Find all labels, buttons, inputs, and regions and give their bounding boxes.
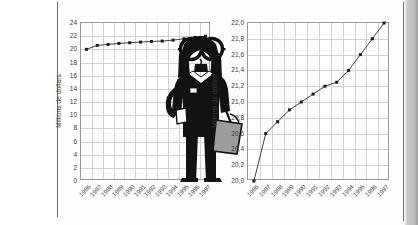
chart-full-scale: Millions de dollars 02468101214161820222… bbox=[58, 0, 218, 225]
y-axis-tick-label: 20,2 bbox=[231, 161, 244, 168]
series-marker bbox=[371, 37, 374, 40]
series-marker bbox=[107, 43, 110, 46]
y-axis-tick-label: 21,8 bbox=[231, 34, 244, 41]
series-marker bbox=[128, 41, 131, 44]
series-marker bbox=[139, 41, 142, 44]
y-axis-tick-label: 21,6 bbox=[231, 50, 244, 57]
series-marker bbox=[347, 69, 350, 72]
y-axis-tick-label: 18 bbox=[70, 58, 77, 65]
chart-right-y-axis-title: Millions de dollars bbox=[211, 74, 218, 128]
y-axis-tick-label: 20,0 bbox=[231, 177, 244, 184]
y-axis-tick-label: 21,4 bbox=[231, 66, 244, 73]
series-marker bbox=[323, 85, 326, 88]
series-marker bbox=[335, 81, 338, 84]
series-marker bbox=[312, 93, 315, 96]
series-marker bbox=[85, 48, 88, 51]
series-marker bbox=[117, 42, 120, 45]
series-line bbox=[254, 23, 384, 181]
series-line bbox=[86, 36, 205, 49]
series-marker bbox=[300, 101, 303, 104]
chart-truncated-scale: Millions de dollars 20,020,220,420,620,8… bbox=[214, 0, 404, 225]
y-axis-tick-label: 20,6 bbox=[231, 129, 244, 136]
series-marker bbox=[193, 36, 196, 39]
y-axis-tick-label: 2 bbox=[73, 163, 77, 170]
series-marker bbox=[264, 132, 267, 135]
series-marker bbox=[276, 120, 279, 123]
y-axis-tick-label: 21,2 bbox=[231, 82, 244, 89]
y-axis-tick-label: 21,0 bbox=[231, 98, 244, 105]
chart-left-y-axis-title: Millions de dollars bbox=[55, 74, 62, 128]
y-axis-tick-label: 16 bbox=[70, 71, 77, 78]
chart-left-series bbox=[81, 23, 211, 181]
y-axis-tick-label: 20,4 bbox=[231, 145, 244, 152]
y-axis-tick-label: 22 bbox=[70, 32, 77, 39]
series-marker bbox=[288, 108, 291, 111]
series-marker bbox=[150, 40, 153, 43]
y-axis-tick-label: 20 bbox=[70, 45, 77, 52]
y-axis-tick-label: 10 bbox=[70, 111, 77, 118]
series-marker bbox=[383, 22, 386, 25]
series-marker bbox=[204, 35, 207, 38]
page-canvas: Millions de dollars 02468101214161820222… bbox=[0, 0, 418, 225]
y-axis-tick-label: 0 bbox=[73, 177, 77, 184]
y-axis-tick-label: 14 bbox=[70, 84, 77, 91]
chart-right-series bbox=[248, 23, 390, 181]
series-marker bbox=[161, 40, 164, 43]
series-marker bbox=[182, 37, 185, 40]
series-marker bbox=[359, 53, 362, 56]
series-marker bbox=[172, 39, 175, 42]
y-axis-tick-label: 22,0 bbox=[231, 19, 244, 26]
series-marker bbox=[96, 44, 99, 47]
y-axis-tick-label: 12 bbox=[70, 98, 77, 105]
y-axis-tick-label: 20,8 bbox=[231, 113, 244, 120]
y-axis-tick-label: 4 bbox=[73, 150, 77, 157]
y-axis-tick-label: 24 bbox=[70, 19, 77, 26]
chart-right-plot-area bbox=[247, 22, 389, 180]
page-left-margin bbox=[0, 0, 58, 225]
y-axis-tick-label: 6 bbox=[73, 137, 77, 144]
y-axis-tick-label: 8 bbox=[73, 124, 77, 131]
page-right-shadow-band bbox=[404, 0, 418, 225]
chart-left-plot-area bbox=[80, 22, 210, 180]
